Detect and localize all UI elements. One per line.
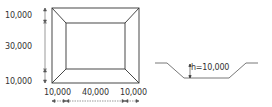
corner-line-bl [52, 69, 66, 83]
corner-line-tl [52, 8, 66, 23]
dim-label-left-middle: 30,000 [5, 42, 32, 51]
vertical-dimension [43, 8, 47, 83]
dim-label-left-bottom: 10,000 [5, 77, 32, 86]
depth-label: h=10,000 [191, 63, 229, 72]
plan-view [52, 8, 139, 83]
dim-label-left-top: 10,000 [5, 11, 32, 20]
corner-line-tr [125, 8, 139, 23]
dim-label-bottom-left: 10,000 [44, 88, 71, 97]
inner-rectangle [66, 23, 125, 69]
corner-line-br [125, 69, 139, 83]
dim-label-bottom-right: 10,000 [120, 88, 147, 97]
outer-rectangle [52, 8, 139, 83]
dim-label-bottom-middle: 40,000 [82, 88, 109, 97]
horizontal-dimension [52, 100, 139, 103]
